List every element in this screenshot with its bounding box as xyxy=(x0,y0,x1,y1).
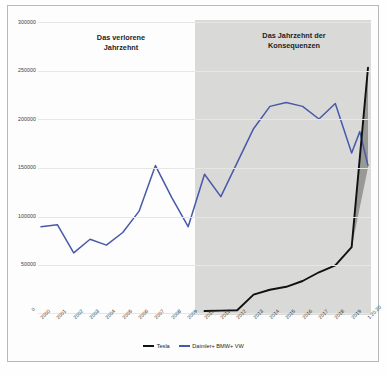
annotation-das-jahrzehnt-der-konsequenzen: Das Jahrzehnt der Konsequenzen xyxy=(233,31,355,51)
y-tick-250000: 250000 xyxy=(0,67,36,73)
legend-label-daimler-bmw-vw: Daimler+ BMW+ VW xyxy=(192,343,244,349)
gridline-50000 xyxy=(38,265,371,266)
legend-item-tesla: Tesla xyxy=(143,343,170,349)
y-tick-200000: 200000 xyxy=(0,116,36,122)
legend-label-tesla: Tesla xyxy=(157,343,170,349)
line-tesla xyxy=(205,68,369,311)
y-axis-labels: 300000 250000 200000 150000 100000 50000 xyxy=(0,22,36,314)
gridline-150000 xyxy=(38,168,371,169)
legend-item-daimler-bmw-vw: Daimler+ BMW+ VW xyxy=(179,343,244,349)
y-tick-100000: 100000 xyxy=(0,213,36,219)
y-tick-150000: 150000 xyxy=(0,164,36,170)
chart-canvas: 300000 250000 200000 150000 100000 50000… xyxy=(0,0,387,377)
legend-swatch-tesla xyxy=(143,345,154,347)
y-tick-300000: 300000 xyxy=(0,19,36,25)
chart-screenshot: 300000 250000 200000 150000 100000 50000… xyxy=(0,0,387,377)
y-tick-50000: 50000 xyxy=(0,261,36,267)
legend-swatch-daimler-bmw-vw xyxy=(179,345,190,347)
plot-area xyxy=(38,22,371,314)
line-daimler-bmw-vw xyxy=(41,103,368,253)
gridline-100000 xyxy=(38,217,371,218)
gridline-250000 xyxy=(38,71,371,72)
annotation-das-verlorene-jahrzehnt: Das verlorene Jahrzehnt xyxy=(62,33,180,53)
gridline-200000 xyxy=(38,119,371,120)
chart-legend: Tesla Daimler+ BMW+ VW xyxy=(0,343,387,349)
gridline-300000 xyxy=(38,22,371,23)
